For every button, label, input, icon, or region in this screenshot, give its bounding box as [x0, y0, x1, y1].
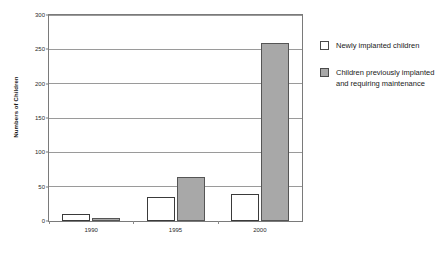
legend-item-1[interactable]: Newly implanted children [320, 40, 435, 51]
y-tick-mark [46, 15, 49, 16]
y-tick-mark [46, 118, 49, 119]
y-tick-label: 300 [35, 12, 45, 18]
x-tick-mark [133, 221, 134, 224]
bar-2000-series-1 [231, 194, 259, 221]
x-tick-label-2000: 2000 [253, 227, 266, 233]
y-tick-label: 200 [35, 81, 45, 87]
bar-2000-series-2 [261, 43, 289, 221]
chart-legend: Newly implanted childrenChildren previou… [320, 40, 435, 105]
x-tick-label-1990: 1990 [84, 227, 97, 233]
bar-1995-series-1 [147, 197, 175, 221]
y-tick-label: 150 [35, 115, 45, 121]
x-tick-label-1995: 1995 [169, 227, 182, 233]
legend-item-2[interactable]: Children previously implanted and requir… [320, 67, 435, 89]
bar-group-2000 [231, 15, 289, 221]
bar-chart: Numbers of Children 05010015020025030019… [0, 0, 438, 253]
bar-group-1990 [62, 15, 120, 221]
legend-label-1: Newly implanted children [336, 40, 419, 51]
bar-1995-series-2 [177, 177, 205, 221]
y-tick-label: 250 [35, 46, 45, 52]
y-axis-title: Numbers of Children [13, 47, 19, 167]
bar-1990-series-1 [62, 214, 90, 221]
legend-swatch-icon-2 [320, 68, 329, 77]
plot-area: 050100150200250300199019952000 [48, 14, 303, 222]
y-tick-mark [46, 186, 49, 187]
y-tick-label: 0 [42, 218, 45, 224]
y-tick-mark [46, 49, 49, 50]
bar-group-1995 [147, 15, 205, 221]
y-tick-mark [46, 152, 49, 153]
x-tick-mark [218, 221, 219, 224]
y-tick-mark [46, 83, 49, 84]
y-tick-label: 100 [35, 149, 45, 155]
legend-label-2: Children previously implanted and requir… [336, 67, 435, 89]
legend-swatch-icon-1 [320, 41, 329, 50]
bar-1990-series-2 [92, 218, 120, 221]
x-tick-mark [49, 221, 50, 224]
y-tick-label: 50 [38, 184, 45, 190]
